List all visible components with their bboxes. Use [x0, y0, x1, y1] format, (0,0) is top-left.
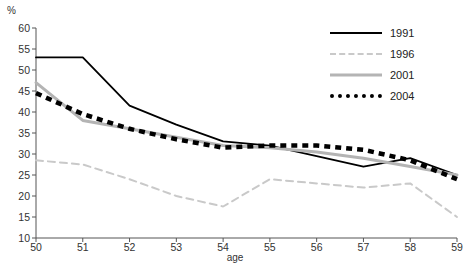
series-line-1996 — [36, 160, 457, 217]
legend-swatch-1996-icon — [330, 49, 382, 59]
legend-label-2004: 2004 — [390, 90, 414, 102]
x-axis-title: age — [0, 252, 470, 263]
series-line-2004 — [36, 93, 457, 179]
legend-label-2001: 2001 — [390, 69, 414, 81]
legend-item-2004: 2004 — [330, 85, 414, 106]
legend-item-2001: 2001 — [330, 64, 414, 85]
chart-footnote — [6, 270, 336, 277]
chart-legend: 1991 1996 2001 2004 — [330, 22, 414, 106]
legend-swatch-2004-icon — [330, 91, 382, 101]
legend-item-1996: 1996 — [330, 43, 414, 64]
line-chart: % 10152025303540455055605051525354555657… — [0, 0, 470, 277]
legend-swatch-1991-icon — [330, 28, 382, 38]
legend-item-1991: 1991 — [330, 22, 414, 43]
legend-label-1996: 1996 — [390, 48, 414, 60]
legend-swatch-2001-icon — [330, 70, 382, 80]
legend-label-1991: 1991 — [390, 27, 414, 39]
